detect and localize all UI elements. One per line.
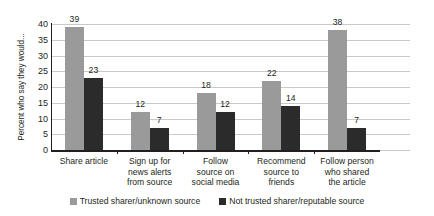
legend-label: Not trusted sharer/reputable source: [229, 196, 364, 206]
bar: 18: [197, 93, 216, 150]
bar: 7: [150, 128, 169, 150]
category-label-line: news alerts: [117, 167, 183, 178]
x-axis-tick: [314, 150, 315, 154]
bar-value-label: 23: [89, 65, 99, 75]
legend-swatch-icon: [70, 198, 77, 205]
y-axis-tick-label: 30: [38, 51, 48, 61]
bar: 7: [347, 128, 366, 150]
legend-swatch-icon: [219, 198, 226, 205]
x-axis-category-label: Share article: [51, 156, 117, 167]
y-axis-title: Percent who say they would...: [16, 17, 26, 157]
legend-label: Trusted sharer/unknown source: [80, 196, 201, 206]
bar-value-label: 18: [201, 80, 211, 90]
bar-value-label: 7: [354, 115, 359, 125]
category-label-line: source to: [248, 167, 314, 178]
bar-value-label: 12: [220, 99, 230, 109]
x-axis-tick: [117, 150, 118, 154]
x-axis-tick: [183, 150, 184, 154]
x-axis-category-label: Sign up fornews alertsfrom source: [117, 156, 183, 188]
category-label-line: friends: [248, 177, 314, 188]
bar-chart-figure: Percent who say they would... 4035302520…: [0, 0, 434, 216]
bar: 23: [84, 78, 103, 150]
y-axis-tick-label: 35: [38, 35, 48, 45]
y-axis-tick-label: 15: [38, 98, 48, 108]
y-axis-tick-label: 20: [38, 82, 48, 92]
category-label-line: the article: [314, 177, 380, 188]
bar: 39: [65, 27, 84, 150]
y-axis-tick-labels: 4035302520151050: [28, 24, 48, 150]
category-label-line: social media: [183, 177, 249, 188]
category-label-line: who shared: [314, 167, 380, 178]
bar-value-label: 39: [70, 14, 80, 24]
bar: 22: [262, 81, 281, 150]
category-label-line: Share article: [51, 156, 117, 167]
bar: 12: [216, 112, 235, 150]
category-label-line: source on: [183, 167, 249, 178]
x-axis-line: [51, 150, 380, 152]
x-axis-category-label: Follow personwho sharedthe article: [314, 156, 380, 188]
x-axis-category-labels: Share articleSign up fornews alertsfrom …: [51, 156, 380, 192]
bar-value-label: 38: [333, 17, 343, 27]
x-axis-tick: [248, 150, 249, 154]
category-label-line: Follow: [183, 156, 249, 167]
bar-value-label: 14: [286, 93, 296, 103]
bar: 14: [281, 106, 300, 150]
category-label-line: Follow person: [314, 156, 380, 167]
chart-legend: Trusted sharer/unknown sourceNot trusted…: [0, 196, 434, 206]
legend-item[interactable]: Not trusted sharer/reputable source: [219, 196, 364, 206]
y-axis-tick-label: 0: [43, 145, 48, 155]
y-axis-tick-label: 10: [38, 114, 48, 124]
bar-value-label: 22: [267, 68, 277, 78]
category-label-line: Recommend: [248, 156, 314, 167]
bar-value-label: 12: [135, 99, 145, 109]
x-axis-category-label: Recommendsource tofriends: [248, 156, 314, 188]
category-label-line: Sign up for: [117, 156, 183, 167]
bar: 38: [328, 30, 347, 150]
y-axis-tick-label: 25: [38, 66, 48, 76]
legend-item[interactable]: Trusted sharer/unknown source: [70, 196, 201, 206]
bar: 12: [131, 112, 150, 150]
bar-value-label: 7: [157, 115, 162, 125]
y-axis-tick-label: 40: [38, 19, 48, 29]
x-axis-category-label: Followsource onsocial media: [183, 156, 249, 188]
bars-layer: 392312718122214387: [51, 24, 380, 150]
y-axis-tick-label: 5: [43, 129, 48, 139]
category-label-line: from source: [117, 177, 183, 188]
